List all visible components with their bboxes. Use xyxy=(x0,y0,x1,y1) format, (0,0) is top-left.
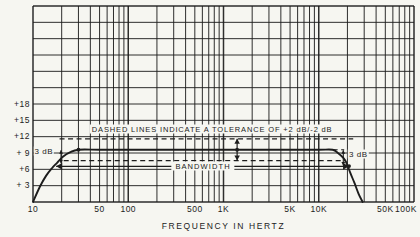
left-3db-label: 3 dB xyxy=(34,147,54,156)
curve-point-marker xyxy=(77,148,81,152)
y-tick-label: + 3 xyxy=(0,181,30,190)
log-grid xyxy=(33,6,414,202)
tolerance-note: DASHED LINES INDICATE A TOLERANCE OF +2 … xyxy=(90,124,335,133)
right-3db-label: 3 dB xyxy=(348,149,368,158)
x-tick-label: 10K xyxy=(310,205,327,214)
curve-point-marker xyxy=(347,164,351,168)
y-tick-label: +12 xyxy=(0,132,30,141)
x-tick-label: 10 xyxy=(28,205,38,214)
arrowhead-down xyxy=(59,160,63,164)
x-axis-title: FREQUENCY IN HERTZ xyxy=(162,222,285,231)
frequency-response-chart xyxy=(0,0,420,237)
x-tick-label: 100 xyxy=(120,205,136,214)
frequency-response xyxy=(33,149,363,202)
arrowhead-up xyxy=(234,139,240,144)
arrowhead-up xyxy=(59,150,63,154)
y-tick-label: + 9 xyxy=(0,149,30,158)
y-tick-label: +18 xyxy=(0,100,30,109)
x-tick-label: 500 xyxy=(187,205,203,214)
x-tick-label: 50K xyxy=(377,205,394,214)
arrowhead-up xyxy=(341,150,345,154)
x-tick-label: 1K xyxy=(218,205,229,214)
frequency-response-figure: +18+15+12+ 9+6+ 310501005001K5K10K50K100… xyxy=(0,0,420,237)
y-tick-label: +15 xyxy=(0,116,30,125)
x-tick-label: 50 xyxy=(94,205,104,214)
x-tick-label: 5K xyxy=(284,205,295,214)
y-tick-label: +6 xyxy=(0,165,30,174)
curve-point-marker xyxy=(235,148,239,152)
x-tick-label: 100K xyxy=(395,205,417,214)
arrowhead-down xyxy=(234,156,240,161)
bandwidth-label: BANDWIDTH xyxy=(171,162,234,171)
